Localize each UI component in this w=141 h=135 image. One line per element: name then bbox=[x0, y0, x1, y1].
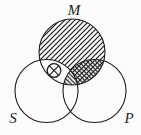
shading-m-minus-s bbox=[0, 0, 141, 135]
label-m: M bbox=[67, 2, 82, 18]
venn-diagram: M S P bbox=[0, 0, 141, 135]
label-p: P bbox=[123, 110, 133, 126]
venn-diagram-canvas: M S P bbox=[0, 0, 141, 135]
label-s: S bbox=[9, 110, 17, 126]
